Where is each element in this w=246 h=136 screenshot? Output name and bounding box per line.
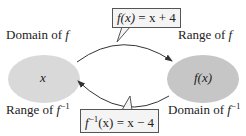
inverse-arrow xyxy=(78,81,169,107)
inverse-superscript: −1 xyxy=(89,114,99,124)
label-text: Domain of xyxy=(168,102,227,117)
forward-arrow xyxy=(77,45,172,62)
label-var: f xyxy=(65,27,69,42)
range-of-f-inverse-label: Range of f−1 xyxy=(6,101,70,118)
label-var: f xyxy=(229,27,233,42)
forward-function-lhs: f(x) xyxy=(117,10,135,25)
range-of-f-label: Range of f xyxy=(178,27,232,43)
inverse-function-arg: (x) xyxy=(98,115,113,130)
label-text: Range of xyxy=(6,102,57,117)
domain-of-f-label: Domain of f xyxy=(6,27,69,43)
forward-function-box: f(x) = x + 4 xyxy=(112,8,181,28)
inverse-function-rhs: = x − 4 xyxy=(117,115,154,130)
bottom-callout-tail xyxy=(122,96,132,110)
forward-function-rhs: = x + 4 xyxy=(138,10,175,25)
top-callout-tail xyxy=(117,27,130,42)
range-element-fx: f(x) xyxy=(194,70,212,86)
label-text: Range of xyxy=(178,27,229,42)
domain-element-x: x xyxy=(40,70,46,86)
domain-of-f-inverse-label: Domain of f−1 xyxy=(168,101,240,118)
label-sup: −1 xyxy=(231,101,241,111)
inverse-function-box: f−1(x) = x − 4 xyxy=(80,109,159,133)
label-text: Domain of xyxy=(6,27,65,42)
label-sup: −1 xyxy=(60,101,70,111)
